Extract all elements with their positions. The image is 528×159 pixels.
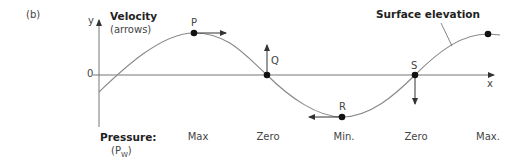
- surface-label-leader: [441, 23, 452, 46]
- velocity-subtitle: (arrows): [110, 24, 151, 35]
- point-s-label: S: [411, 60, 417, 71]
- pressure-value-s: Zero: [404, 131, 427, 142]
- pressure-symbol: (PW): [111, 145, 132, 159]
- pressure-value-r: Min.: [334, 131, 355, 142]
- point-r-dot: [339, 114, 346, 121]
- point-r-label: R: [339, 101, 346, 112]
- point-q-label: Q: [271, 55, 279, 66]
- surface-elevation-label: Surface elevation: [376, 8, 480, 20]
- end-dot: [485, 31, 492, 38]
- point-p-label: P: [191, 17, 197, 28]
- velocity-title: Velocity: [110, 10, 157, 22]
- zero-label: 0: [87, 68, 93, 79]
- pressure-value-q: Zero: [256, 131, 279, 142]
- point-p-dot: [191, 30, 198, 37]
- pressure-value-end: Max.: [476, 131, 500, 142]
- pressure-value-p: Max: [188, 131, 209, 142]
- y-axis-label: y: [88, 15, 94, 26]
- point-q-dot: [264, 72, 271, 79]
- pressure-title: Pressure:: [100, 131, 156, 143]
- panel-label: (b): [26, 9, 40, 20]
- x-axis-label: x: [487, 78, 493, 89]
- point-s-dot: [412, 72, 419, 79]
